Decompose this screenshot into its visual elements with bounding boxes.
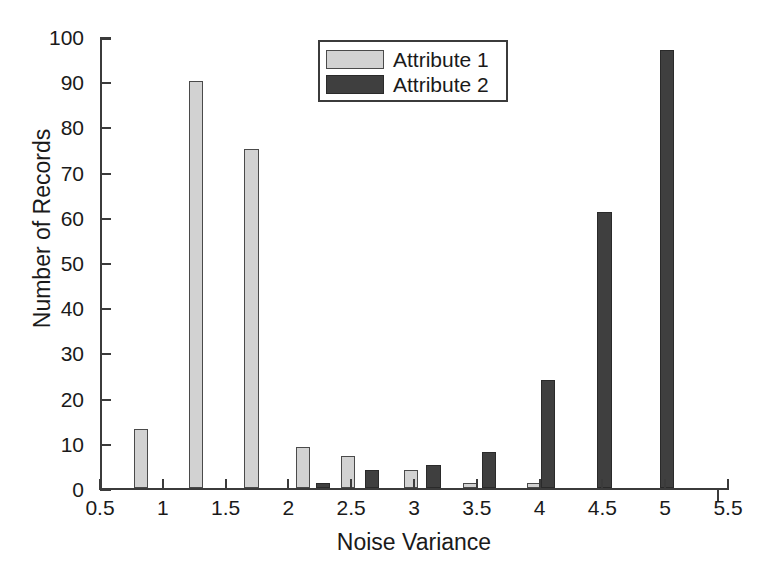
y-axis-tick [100, 399, 111, 401]
bar [426, 465, 440, 488]
y-axis-tick-label: 0 [0, 479, 84, 500]
legend-entry-attribute-2: Attribute 2 [326, 72, 500, 97]
x-axis-tick [476, 479, 478, 490]
x-axis-tick [727, 479, 729, 490]
y-axis-title: Number of Records [29, 19, 56, 439]
y-axis-tick [100, 308, 111, 310]
y-axis-tick [100, 489, 111, 491]
bar [189, 81, 203, 488]
x-axis-tick [162, 479, 164, 490]
chart-legend: Attribute 1 Attribute 2 [318, 40, 508, 102]
y-axis-tick [100, 127, 111, 129]
legend-entry-attribute-1: Attribute 1 [326, 47, 500, 72]
legend-label-attribute-1: Attribute 1 [393, 49, 489, 70]
bar [365, 470, 379, 488]
x-axis-tick-label: 3 [408, 497, 420, 518]
y-axis-tick [100, 444, 111, 446]
y-axis-tick [100, 37, 111, 39]
bar [296, 447, 310, 488]
x-axis-tick-label: 0.5 [85, 497, 114, 518]
x-axis-tick-label: 2 [283, 497, 295, 518]
bar [244, 149, 258, 488]
x-axis-tick [664, 479, 666, 490]
legend-label-attribute-2: Attribute 2 [393, 74, 489, 95]
x-axis-tick-label: 1 [157, 497, 169, 518]
chart-figure: 0102030405060708090100 0.511.522.533.544… [0, 0, 769, 580]
y-axis-tick [100, 218, 111, 220]
x-axis-tick-label: 2.5 [337, 497, 366, 518]
legend-swatch-attribute-2 [326, 75, 384, 94]
bar [541, 380, 555, 488]
x-axis-tick [350, 479, 352, 490]
x-axis-title: Noise Variance [100, 529, 728, 556]
x-axis-tick-label: 5.5 [713, 497, 742, 518]
x-axis-tick-label: 4 [534, 497, 546, 518]
y-axis-tick [100, 263, 111, 265]
bar [482, 452, 496, 488]
y-axis-tick [100, 353, 111, 355]
x-axis-tick-label: 5 [659, 497, 671, 518]
legend-swatch-attribute-1 [326, 50, 384, 69]
y-axis-tick [100, 173, 111, 175]
x-axis-tick [225, 479, 227, 490]
x-axis-tick-label: 1.5 [211, 497, 240, 518]
x-axis-tick [287, 479, 289, 490]
x-axis-tick [539, 479, 541, 490]
bar [341, 456, 355, 488]
bar [597, 212, 611, 488]
x-axis-tick [413, 479, 415, 490]
bar [660, 50, 674, 488]
x-axis-tick [601, 479, 603, 490]
bar [316, 483, 330, 488]
x-axis-tick-label: 3.5 [462, 497, 491, 518]
x-axis-tick-label: 4.5 [588, 497, 617, 518]
bar [404, 470, 418, 488]
plot-area [100, 38, 728, 490]
bar [134, 429, 148, 488]
y-axis-tick [100, 82, 111, 84]
x-axis-tick [99, 479, 101, 490]
